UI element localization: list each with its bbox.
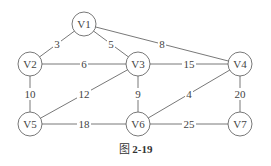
node-v5: V5 [18,112,42,136]
node-label: V3 [131,58,145,70]
weighted-graph: 358615101294201825 V1V2V3V4V5V6V7 [0,0,271,140]
node-label: V4 [233,58,247,70]
node-v4: V4 [228,52,252,76]
node-v2: V2 [18,52,42,76]
edge-weight-v1-v2: 3 [54,38,60,50]
edge-weight-v5-v6: 18 [79,118,91,130]
node-v6: V6 [126,112,150,136]
node-label: V2 [23,58,36,70]
edge-weight-v1-v4: 8 [159,38,165,50]
edge-weight-v3-v4: 15 [184,58,196,70]
node-label: V5 [23,118,37,130]
node-v1: V1 [72,12,96,36]
edge-weight-v2-v3: 6 [81,58,87,70]
node-v3: V3 [126,52,150,76]
nodes-layer: V1V2V3V4V5V6V7 [18,12,252,136]
node-label: V6 [131,118,145,130]
figure-caption: 图 2-19 [0,140,271,156]
edge-weight-v4-v6: 4 [186,88,192,100]
caption-number: 2-19 [132,143,152,155]
edge-weight-v3-v5: 12 [79,88,90,100]
edge-weight-v6-v7: 25 [184,118,196,130]
caption-prefix: 图 [119,143,130,155]
edge-weight-v1-v3: 5 [108,38,114,50]
edge-weight-v4-v7: 20 [235,88,247,100]
edge-weight-v3-v6: 9 [135,88,141,100]
node-v7: V7 [228,112,252,136]
node-label: V1 [77,18,90,30]
node-label: V7 [233,118,247,130]
edge-weight-v2-v5: 10 [25,88,37,100]
